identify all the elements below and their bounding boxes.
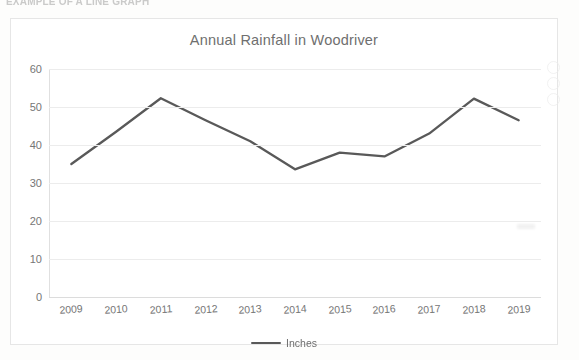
- x-axis-tick-label: 2014: [283, 302, 307, 316]
- x-axis-tick-label: 2009: [59, 302, 83, 316]
- x-axis-tick-label: 2019: [507, 302, 531, 316]
- gridline: [49, 69, 541, 70]
- scan-artifact-dot: [547, 93, 560, 106]
- x-axis-tick-label: 2012: [193, 302, 217, 316]
- y-axis-tick-label: 20: [30, 215, 42, 227]
- line-swatch-icon: [251, 342, 281, 345]
- scan-artifact-dot: [547, 61, 560, 74]
- y-axis-tick-label: 50: [30, 101, 42, 113]
- scanned-page-header: EXAMPLE OF A LINE GRAPH: [6, 0, 246, 8]
- legend-item-label: Inches: [286, 337, 317, 349]
- y-axis-tick-label: 0: [36, 291, 42, 303]
- chart-legend: Inches: [11, 337, 557, 349]
- x-axis-tick-label: 2018: [462, 302, 486, 316]
- scan-artifact-smudge: [517, 224, 535, 229]
- gridline: [49, 183, 541, 184]
- scan-artifact-dot: [547, 77, 560, 90]
- chart-card: Annual Rainfall in Woodriver 01020304050…: [10, 18, 558, 345]
- x-axis-tick-label: 2015: [328, 302, 352, 316]
- x-axis-tick-label: 2010: [104, 302, 128, 316]
- gridline: [49, 221, 541, 222]
- category-axis: 2009201020112012201320142015201620172018…: [49, 303, 541, 329]
- x-axis-tick-label: 2011: [149, 302, 172, 316]
- series-inches-line: [71, 98, 518, 169]
- gridline: [49, 145, 541, 146]
- y-axis-tick-label: 10: [30, 253, 42, 265]
- plot-area: 0102030405060: [49, 69, 541, 297]
- x-axis-tick-label: 2017: [417, 302, 441, 316]
- y-axis-tick-label: 60: [30, 63, 42, 75]
- gridline: [49, 259, 541, 260]
- gridline: [49, 107, 541, 108]
- gridline: [49, 297, 541, 298]
- x-axis-tick-label: 2016: [372, 302, 396, 316]
- y-axis-tick-label: 30: [30, 177, 42, 189]
- x-axis-tick-label: 2013: [238, 302, 262, 316]
- y-axis-tick-label: 40: [30, 139, 42, 151]
- chart-title: Annual Rainfall in Woodriver: [11, 32, 557, 48]
